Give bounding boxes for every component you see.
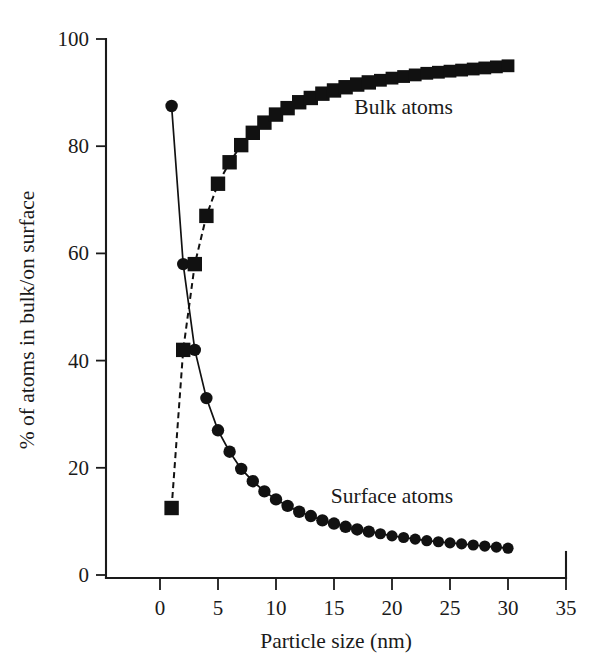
data-point-square — [234, 138, 248, 152]
y-axis-tick-label: 20 — [68, 456, 89, 480]
data-point-square — [467, 63, 480, 76]
data-point-square — [374, 74, 387, 87]
data-point-circle — [177, 258, 189, 270]
data-series-layer — [164, 59, 514, 553]
data-point-circle — [212, 424, 224, 436]
data-point-circle — [456, 538, 467, 549]
data-point-circle — [258, 485, 270, 497]
data-point-circle — [247, 475, 259, 487]
data-point-circle — [293, 506, 305, 518]
y-axis-title: % of atoms in bulk/on surface — [15, 191, 39, 450]
chart-figure: 020406080100 05101520253035 Bulk atomsSu… — [0, 0, 609, 670]
x-axis-title: Particle size (nm) — [260, 629, 412, 653]
data-point-square — [455, 64, 468, 77]
x-axis-tick-label: 15 — [324, 596, 345, 620]
y-axis-ticks: 020406080100 — [58, 27, 107, 587]
series-line-bulk-atoms — [172, 66, 508, 508]
data-point-circle — [270, 493, 282, 505]
data-point-square — [444, 65, 457, 78]
data-point-square — [188, 257, 202, 271]
data-point-circle — [339, 521, 351, 533]
data-point-circle — [165, 100, 177, 112]
data-point-square — [222, 155, 236, 169]
data-point-square — [432, 66, 445, 79]
data-point-circle — [479, 540, 490, 551]
data-point-circle — [421, 535, 432, 546]
series-annotation-surface-atoms: Surface atoms — [331, 484, 453, 508]
data-point-circle — [410, 533, 421, 544]
data-point-circle — [502, 543, 513, 554]
data-point-square — [211, 177, 225, 191]
x-axis-tick-label: 35 — [556, 596, 577, 620]
data-point-square — [502, 59, 515, 72]
data-point-circle — [223, 446, 235, 458]
data-point-circle — [375, 528, 386, 539]
y-axis-tick-label: 80 — [68, 134, 89, 158]
data-point-square — [397, 70, 410, 83]
series-annotation-bulk-atoms: Bulk atoms — [354, 95, 453, 119]
data-point-circle — [305, 510, 317, 522]
data-point-square — [490, 60, 503, 73]
series-annotations: Bulk atomsSurface atoms — [331, 95, 453, 508]
x-axis-tick-label: 5 — [213, 596, 224, 620]
data-point-circle — [351, 523, 363, 535]
series-line-surface-atoms — [172, 106, 508, 548]
data-point-square — [420, 67, 433, 80]
data-point-circle — [433, 536, 444, 547]
y-axis-tick-label: 60 — [68, 241, 89, 265]
data-point-circle — [444, 537, 455, 548]
y-axis-tick-label: 100 — [58, 27, 90, 51]
data-point-circle — [281, 500, 293, 512]
data-point-circle — [200, 392, 212, 404]
data-point-circle — [316, 514, 328, 526]
particle-size-line-chart: 020406080100 05101520253035 Bulk atomsSu… — [0, 0, 609, 670]
y-axis-tick-label: 40 — [68, 349, 89, 373]
data-point-square — [176, 343, 190, 357]
data-point-square — [386, 72, 399, 85]
data-point-square — [164, 501, 178, 515]
x-axis-tick-label: 10 — [266, 596, 287, 620]
data-point-circle — [386, 530, 397, 541]
data-point-square — [362, 75, 376, 89]
x-axis-tick-label: 0 — [155, 596, 166, 620]
data-point-circle — [398, 532, 409, 543]
data-point-circle — [363, 525, 375, 537]
data-point-circle — [468, 539, 479, 550]
data-point-circle — [189, 344, 201, 356]
x-axis-tick-label: 25 — [440, 596, 461, 620]
y-axis-tick-label: 0 — [79, 563, 90, 587]
data-point-square — [199, 209, 213, 223]
data-point-circle — [235, 463, 247, 475]
x-axis-tick-label: 30 — [498, 596, 519, 620]
data-point-circle — [491, 542, 502, 553]
data-point-square — [409, 69, 422, 82]
data-point-circle — [328, 517, 340, 529]
x-axis-tick-label: 20 — [382, 596, 403, 620]
data-point-square — [478, 62, 491, 75]
x-axis-ticks: 05101520253035 — [155, 578, 577, 620]
